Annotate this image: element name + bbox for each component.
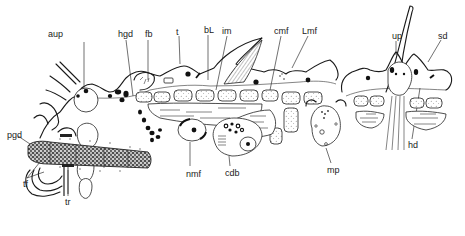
label-aup: aup [48,30,63,39]
anterior-papilla [46,62,98,112]
insertion-muscle-spine [224,40,262,84]
label-up: up [392,32,402,41]
label-lmf: Lmf [302,27,317,36]
label-im: im [222,27,232,36]
label-pgd: pgd [7,131,22,140]
cell-with-dense-bodies [213,118,262,156]
fat-body-cell [134,73,154,90]
trichogen-cells [164,71,200,83]
myoepithelial-pore [306,100,346,146]
label-cmf: cmf [274,27,289,36]
label-nmf: nmf [186,170,201,179]
label-hd: hd [408,141,418,150]
label-tf: tf [23,180,28,189]
label-cdb: cdb [225,169,240,178]
label-tr: tr [65,198,71,207]
label-t: t [176,28,179,37]
label-bl: bL [204,26,214,35]
anatomical-diagram: aup hgd fb t bL im cmf Lmf up sd pgd nmf… [0,0,465,236]
nucleus-muscle-fiber [178,119,206,141]
label-mp: mp [327,166,340,175]
label-hgd: hgd [118,30,133,39]
label-sd: sd [438,32,448,41]
label-fb: fb [145,30,153,39]
